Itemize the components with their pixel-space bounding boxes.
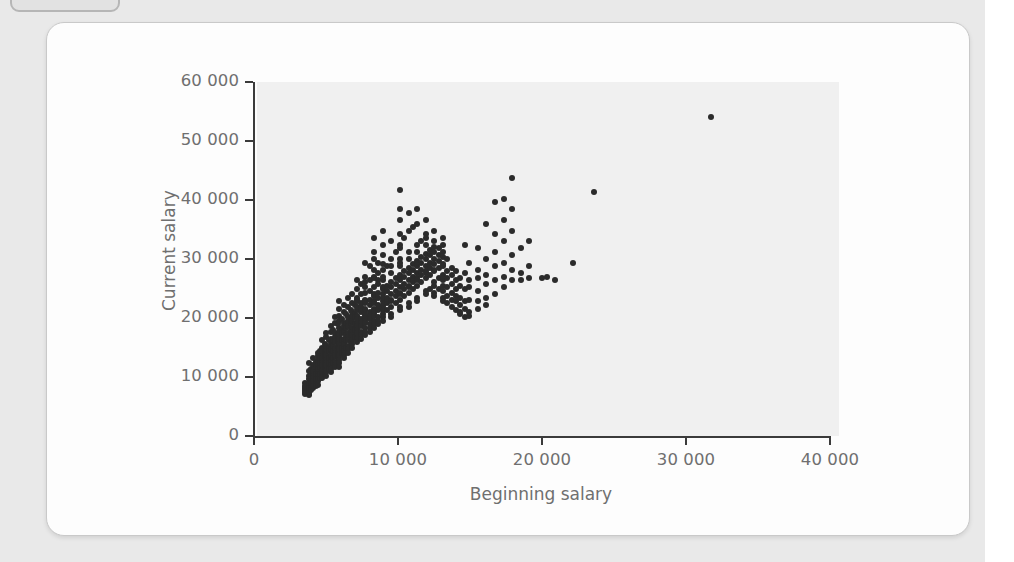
scatter-point — [492, 263, 498, 269]
y-tick — [245, 258, 253, 260]
scatter-chart: 010 00020 00030 00040 00050 00060 000 01… — [47, 23, 969, 535]
x-tick-label: 30 000 — [625, 450, 747, 469]
y-tick — [245, 317, 253, 319]
y-axis-title: Current salary — [159, 190, 179, 311]
y-tick-label: 0 — [228, 425, 239, 444]
top-tab-partial[interactable] — [10, 0, 120, 12]
scatter-point — [406, 210, 412, 216]
scatter-point — [462, 242, 468, 248]
scatter-point — [483, 302, 489, 308]
scatter-point — [380, 242, 386, 248]
scatter-point — [492, 231, 498, 237]
y-tick — [245, 199, 253, 201]
scatter-point — [406, 304, 412, 310]
scatter-point — [397, 245, 403, 251]
scatter-point — [509, 252, 515, 258]
scatter-point — [526, 275, 532, 281]
scatter-point — [388, 238, 394, 244]
scatter-point — [492, 277, 498, 283]
x-tick-label: 20 000 — [481, 450, 603, 469]
scatter-point — [466, 313, 472, 319]
scatter-point — [570, 260, 576, 266]
scatter-point — [518, 277, 524, 283]
x-tick — [829, 436, 831, 445]
scatter-point — [544, 274, 550, 280]
scatter-point — [492, 199, 498, 205]
scatter-point — [423, 217, 429, 223]
x-tick — [397, 436, 399, 445]
scatter-point — [349, 345, 355, 351]
scatter-point — [440, 242, 446, 248]
scatter-point — [388, 263, 394, 269]
scatter-point — [475, 275, 481, 281]
x-tick-label: 10 000 — [337, 450, 459, 469]
scatter-point — [397, 206, 403, 212]
scatter-point — [406, 249, 412, 255]
scatter-point — [483, 256, 489, 262]
scatter-point — [509, 267, 515, 273]
scatter-point — [526, 238, 532, 244]
x-tick — [253, 436, 255, 445]
scatter-point — [397, 217, 403, 223]
scatter-point — [518, 245, 524, 251]
scatter-point — [483, 281, 489, 287]
scatter-point — [423, 235, 429, 241]
scatter-point — [401, 235, 407, 241]
scatter-point — [509, 206, 515, 212]
x-axis-title: Beginning salary — [80, 484, 1002, 504]
scatter-point — [414, 298, 420, 304]
scatter-point — [708, 114, 714, 120]
scatter-point — [475, 306, 481, 312]
scatter-point — [492, 291, 498, 297]
y-axis-line — [253, 82, 255, 436]
scatter-point — [397, 187, 403, 193]
scatter-point — [397, 307, 403, 313]
scatter-point — [509, 228, 515, 234]
scatter-point — [371, 235, 377, 241]
scatter-point — [341, 355, 347, 361]
scatter-point — [380, 274, 386, 280]
scatter-point — [397, 260, 403, 266]
scatter-point — [431, 238, 437, 244]
x-tick-label: 40 000 — [769, 450, 891, 469]
scatter-point — [466, 277, 472, 283]
x-tick — [685, 436, 687, 445]
scatter-point — [414, 221, 420, 227]
scatter-point — [475, 245, 481, 251]
scatter-point — [492, 249, 498, 255]
scatter-point — [483, 221, 489, 227]
scatter-point — [518, 270, 524, 276]
y-tick-label: 60 000 — [181, 71, 239, 90]
scatter-point — [423, 291, 429, 297]
y-tick-label: 50 000 — [181, 130, 239, 149]
scatter-point — [501, 196, 507, 202]
scatter-point — [483, 272, 489, 278]
y-tick-label: 20 000 — [181, 307, 239, 326]
scatter-point — [462, 270, 468, 276]
scatter-point — [380, 318, 386, 324]
y-tick-label: 30 000 — [181, 248, 239, 267]
scatter-point — [431, 293, 437, 299]
scatter-point — [336, 364, 342, 370]
y-tick — [245, 140, 253, 142]
y-tick — [245, 435, 253, 437]
scatter-point — [315, 382, 321, 388]
scatter-point — [475, 298, 481, 304]
scatter-point — [388, 256, 394, 262]
scatter-point — [444, 256, 450, 262]
scatter-point — [501, 217, 507, 223]
y-tick — [245, 376, 253, 378]
y-tick-label: 40 000 — [181, 189, 239, 208]
chart-card: 010 00020 00030 00040 00050 00060 000 01… — [46, 22, 970, 536]
scatter-point — [457, 275, 463, 281]
scatter-point — [501, 238, 507, 244]
scatter-point — [380, 252, 386, 258]
scatter-point — [509, 175, 515, 181]
y-tick-label: 10 000 — [181, 366, 239, 385]
scatter-point — [483, 295, 489, 301]
scatter-point — [501, 260, 507, 266]
x-tick — [541, 436, 543, 445]
scatter-point — [345, 350, 351, 356]
scatter-point — [453, 268, 459, 274]
scatter-point — [414, 206, 420, 212]
